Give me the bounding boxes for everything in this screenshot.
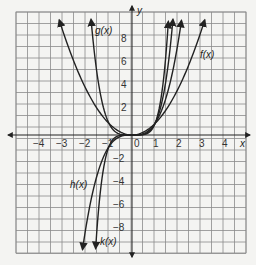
x-tick-1: 1 (153, 138, 159, 149)
x-tick-4: 4 (222, 138, 228, 149)
y-tick-m6: −6 (113, 199, 125, 210)
x-tick-m3: −3 (56, 138, 68, 149)
y-tick-8: 8 (121, 33, 127, 44)
label-f: f(x) (200, 49, 214, 60)
label-k: k(x) (100, 236, 117, 247)
x-tick-2: 2 (176, 138, 182, 149)
x-tick-3: 3 (199, 138, 205, 149)
y-tick-2: 2 (121, 102, 127, 113)
y-tick-6: 6 (121, 56, 127, 67)
y-tick-m2: −2 (113, 153, 125, 164)
x-axis-label: x (239, 138, 246, 149)
label-h: h(x) (70, 179, 87, 190)
x-tick-m2: −2 (79, 138, 91, 149)
label-g: g(x) (95, 25, 112, 36)
y-tick-m8: −8 (113, 222, 125, 233)
y-axis-label: y (136, 5, 143, 16)
function-graph: x y 0 −4 −3 −2 −1 1 2 3 4 8 6 4 2 −2 −4 … (0, 0, 256, 265)
y-tick-4: 4 (121, 79, 127, 90)
y-tick-m4: −4 (113, 176, 125, 187)
x-tick-m4: −4 (33, 138, 45, 149)
origin-label: 0 (134, 138, 140, 149)
